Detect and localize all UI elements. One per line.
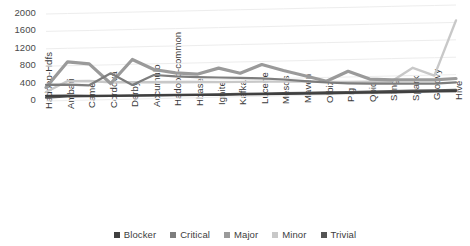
legend-swatch-icon: [170, 232, 176, 238]
legend-swatch-icon: [114, 232, 120, 238]
chart-legend: BlockerCriticalMajorMinorTrivial: [0, 229, 470, 240]
legend-item-label: Blocker: [124, 229, 156, 240]
legend-item-label: Trivial: [331, 229, 357, 240]
legend-swatch-icon: [321, 232, 327, 238]
chart-container: 2000160012008004000 Hadoop-HdfsAmbariCam…: [0, 0, 470, 246]
legend-item-trivial[interactable]: Trivial: [321, 229, 357, 240]
grid-line: [46, 5, 456, 14]
legend-item-label: Major: [234, 229, 258, 240]
legend-item-minor[interactable]: Minor: [272, 229, 306, 240]
legend-item-label: Critical: [180, 229, 210, 240]
legend-swatch-icon: [224, 232, 230, 238]
plot-area: [0, 0, 470, 246]
grid-line: [46, 57, 456, 66]
legend-item-blocker[interactable]: Blocker: [114, 229, 156, 240]
grid-line: [46, 40, 456, 49]
series-lines: [46, 20, 456, 97]
legend-swatch-icon: [272, 232, 278, 238]
grid-line: [46, 22, 456, 31]
legend-item-critical[interactable]: Critical: [170, 229, 210, 240]
legend-item-label: Minor: [282, 229, 306, 240]
grid-lines: [46, 5, 456, 101]
legend-item-major[interactable]: Major: [224, 229, 258, 240]
